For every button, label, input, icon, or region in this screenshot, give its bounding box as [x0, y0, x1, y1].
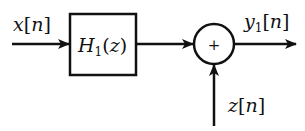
- side-input-label: z[n]: [227, 94, 265, 116]
- adder-plus-icon: +: [208, 36, 221, 54]
- block-diagram: x[n] H1(z) + y1[n] z[n]: [0, 0, 305, 131]
- input-label: x[n]: [13, 13, 51, 35]
- block-label: H1(z): [77, 34, 127, 59]
- output-label: y1[n]: [243, 10, 289, 35]
